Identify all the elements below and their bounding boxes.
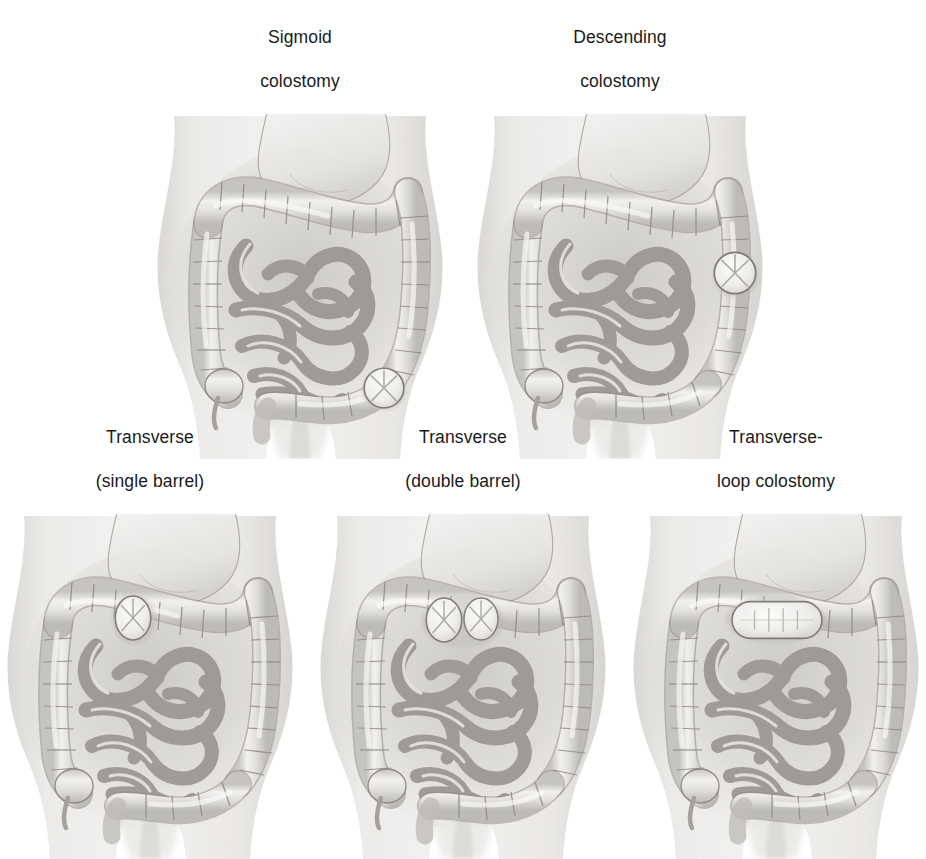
panel-descending: Descending colostomy xyxy=(470,4,770,459)
panel-transverse-loop-caption: Transverse- loop colostomy xyxy=(626,404,926,514)
abdomen-anatomy xyxy=(321,514,606,859)
panel-transverse-loop-illustration xyxy=(626,514,926,859)
stoma-transverse-double xyxy=(421,596,505,648)
panel-transverse-single-caption-line1: Transverse xyxy=(0,426,300,448)
panel-transverse-double-illustration xyxy=(313,514,613,859)
panel-transverse-single-illustration xyxy=(0,514,300,859)
abdomen-anatomy xyxy=(634,514,919,859)
panel-sigmoid: Sigmoid colostomy xyxy=(150,4,450,459)
panel-descending-caption-line1: Descending xyxy=(470,26,770,48)
panel-descending-caption: Descending colostomy xyxy=(470,4,770,114)
panel-descending-caption-line2: colostomy xyxy=(470,70,770,92)
panel-sigmoid-caption: Sigmoid colostomy xyxy=(150,4,450,114)
stoma-distal xyxy=(464,598,498,640)
panel-sigmoid-caption-line2: colostomy xyxy=(150,70,450,92)
panel-transverse-double-barrel: Transverse (double barrel) xyxy=(313,404,613,859)
panel-transverse-double-caption-line1: Transverse xyxy=(313,426,613,448)
panel-transverse-double-caption-line2: (double barrel) xyxy=(313,470,613,492)
stoma-transverse-loop xyxy=(726,596,826,644)
abdomen-anatomy xyxy=(8,514,293,859)
stoma-proximal xyxy=(426,598,461,642)
panel-transverse-loop-caption-line2: loop colostomy xyxy=(626,470,926,492)
panel-transverse-double-caption: Transverse (double barrel) xyxy=(313,404,613,514)
panel-transverse-single-barrel: Transverse (single barrel) xyxy=(0,404,300,859)
panel-transverse-single-caption-line2: (single barrel) xyxy=(0,470,300,492)
panel-transverse-single-caption: Transverse (single barrel) xyxy=(0,404,300,514)
stoma-transverse-single xyxy=(112,595,156,645)
panel-transverse-loop-caption-line1: Transverse- xyxy=(626,426,926,448)
panel-transverse-loop: Transverse- loop colostomy xyxy=(626,404,926,859)
panel-sigmoid-caption-line1: Sigmoid xyxy=(150,26,450,48)
